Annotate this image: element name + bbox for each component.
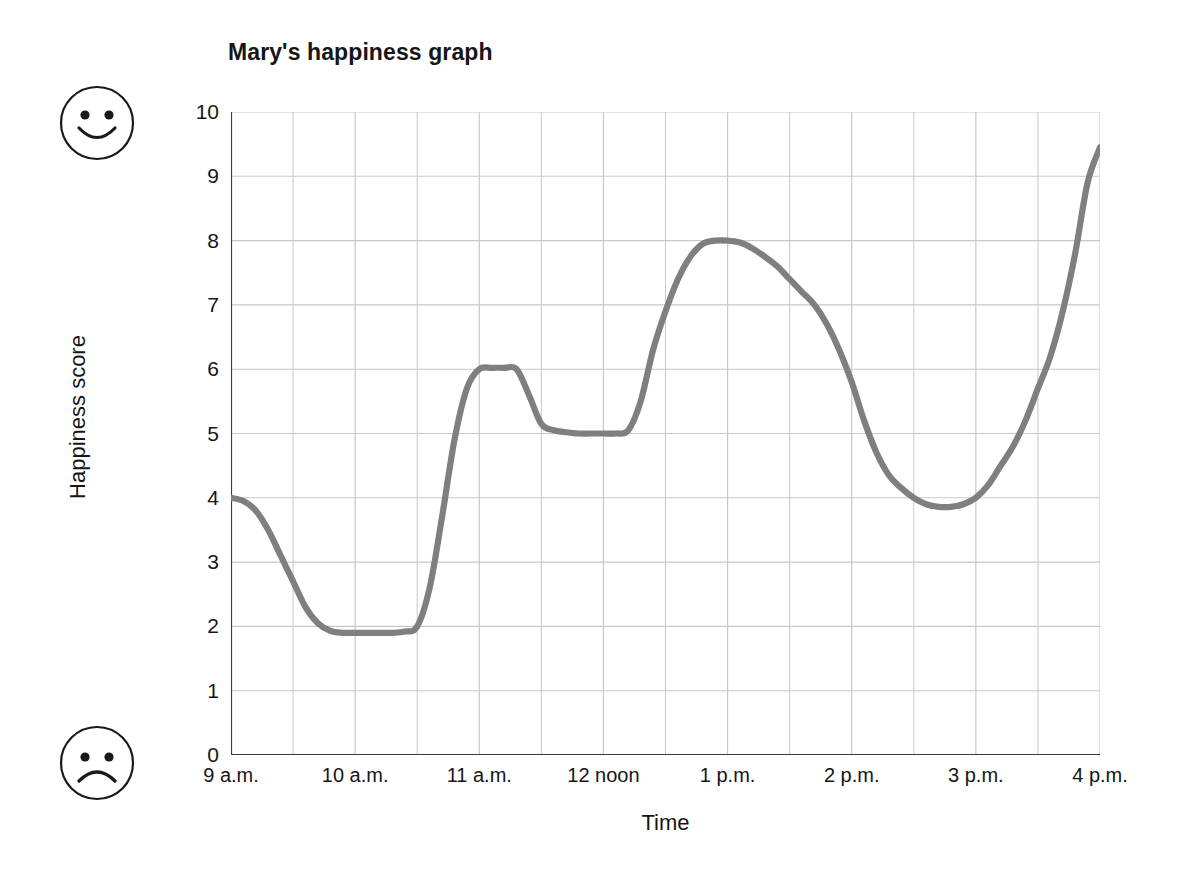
x-tick-label: 10 a.m. xyxy=(322,764,389,787)
x-tick-label: 12 noon xyxy=(567,764,639,787)
y-tick-label: 9 xyxy=(179,164,219,188)
y-tick-label: 10 xyxy=(179,100,219,124)
y-tick-label: 4 xyxy=(179,486,219,510)
x-tick-label: 2 p.m. xyxy=(824,764,880,787)
y-axis-tick-labels: 109876543210 xyxy=(173,112,219,755)
plot-area xyxy=(231,112,1100,755)
y-tick-label: 5 xyxy=(179,422,219,446)
y-axis-title: Happiness score xyxy=(65,287,91,547)
chart-title: Mary's happiness graph xyxy=(228,39,493,66)
x-axis-title: Time xyxy=(231,810,1100,836)
x-tick-label: 11 a.m. xyxy=(447,764,512,787)
y-tick-label: 6 xyxy=(179,357,219,381)
x-tick-label: 4 p.m. xyxy=(1072,764,1128,787)
y-tick-label: 7 xyxy=(179,293,219,317)
sad-face-icon xyxy=(57,723,137,803)
x-tick-label: 1 p.m. xyxy=(700,764,756,787)
x-axis-tick-labels: 9 a.m.10 a.m.11 a.m.12 noon1 p.m.2 p.m.3… xyxy=(231,764,1100,798)
y-tick-label: 3 xyxy=(179,550,219,574)
y-tick-label: 1 xyxy=(179,679,219,703)
x-tick-label: 3 p.m. xyxy=(948,764,1004,787)
happy-face-icon xyxy=(57,83,137,163)
y-tick-label: 8 xyxy=(179,229,219,253)
happiness-graph-page: Mary's happiness graph Happiness score T… xyxy=(0,0,1179,883)
x-tick-label: 9 a.m. xyxy=(203,764,259,787)
y-tick-label: 2 xyxy=(179,614,219,638)
